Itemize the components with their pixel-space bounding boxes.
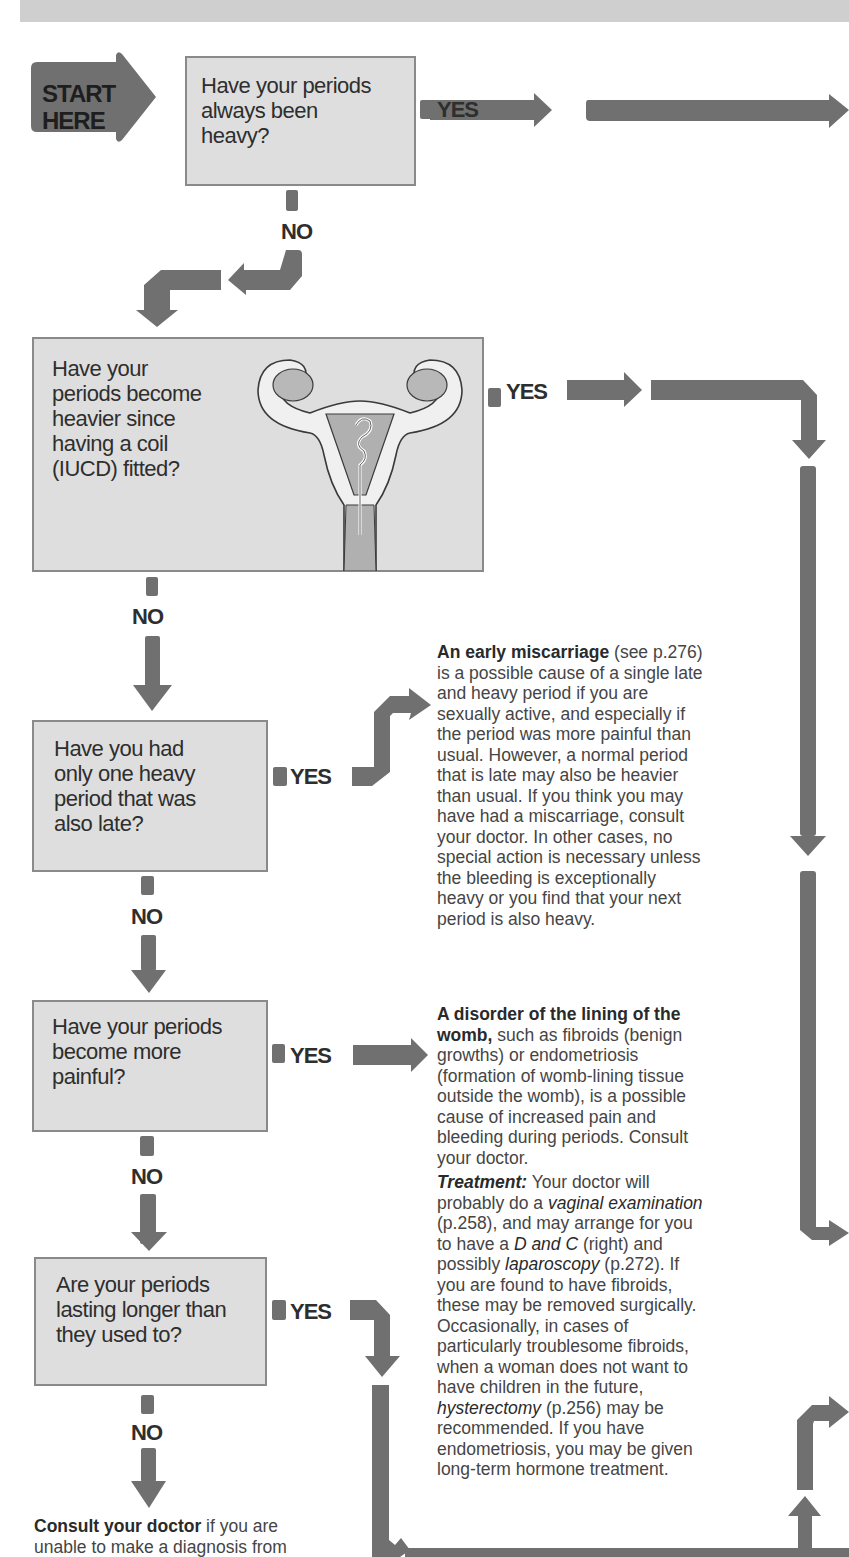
yes-label[interactable]: YES [290,764,331,790]
yes-marker [420,100,433,119]
arrow-right-icon [353,1038,428,1072]
no-label[interactable]: NO [281,219,312,245]
question-text: Have your periodsbecome morepainful? [52,1014,222,1089]
no-label[interactable]: NO [131,1164,162,1190]
yes-label[interactable]: YES [437,97,478,123]
link-laparoscopy[interactable]: laparoscopy [505,1254,599,1274]
link-d-and-c[interactable]: D and C [514,1234,578,1254]
question-text: Have yourperiods becomeheavier sincehavi… [52,356,202,481]
uterus-coil-illustration [250,355,470,571]
bent-arrow-icon [350,1300,400,1377]
no-label[interactable]: NO [131,904,162,930]
treatment-label: Treatment: [437,1172,527,1192]
question-text: Have your periodsalways beenheavy? [201,73,371,148]
bent-arrow-icon [651,380,826,459]
bent-arrow-icon [136,270,221,327]
no-label[interactable]: NO [132,604,163,630]
answer-early-miscarriage: An early miscarriage (see p.276) is a po… [437,642,767,929]
answer-womb-disorder: A disorder of the lining of the womb, su… [437,1004,777,1480]
question-text: Are your periodslasting longer thanthey … [56,1272,226,1347]
answer-consult-doctor: Consult your doctor if you are unable to… [34,1516,374,1557]
start-here-label: START HERE [42,80,115,134]
yes-label[interactable]: YES [506,379,547,405]
yes-label[interactable]: YES [290,1299,331,1325]
link-vaginal-examination[interactable]: vaginal examination [548,1193,703,1213]
arrow-right-icon [567,372,642,407]
no-label[interactable]: NO [131,1420,162,1446]
bent-arrow-icon [352,688,431,786]
yes-label[interactable]: YES [290,1043,331,1069]
arrow-right-icon [586,94,849,128]
bent-arrow-icon [228,250,302,295]
link-hysterectomy[interactable]: hysterectomy [437,1398,541,1418]
question-text: Have you hadonly one heavyperiod that wa… [54,736,196,836]
